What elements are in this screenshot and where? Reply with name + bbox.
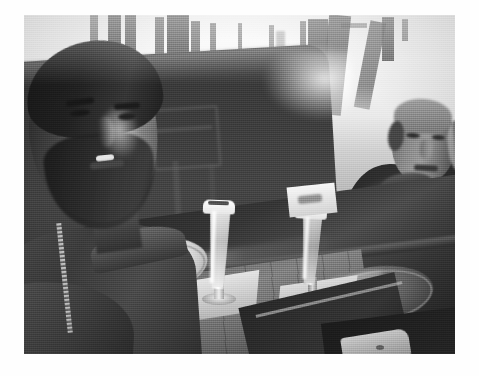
photograph — [24, 15, 455, 354]
chair — [150, 105, 222, 172]
glass-left-foam-shadow — [208, 201, 229, 206]
window-frame — [269, 25, 274, 49]
window-frame — [402, 19, 408, 41]
photo-page — [0, 0, 479, 376]
napkin-mark — [376, 345, 384, 350]
caption-area — [0, 356, 479, 376]
window-glow — [262, 51, 352, 121]
person-right-mouth — [414, 164, 438, 171]
